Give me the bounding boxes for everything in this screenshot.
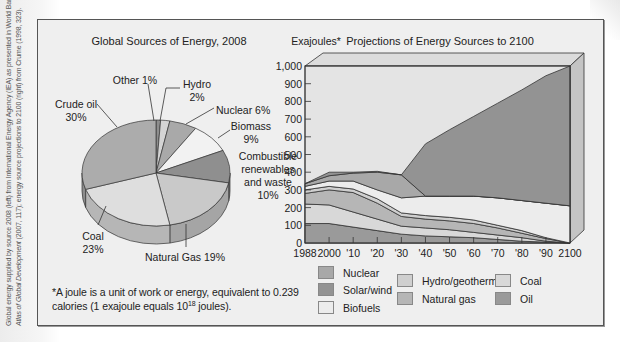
footnote-tail: joules). (196, 300, 232, 312)
pie-label: Other 1% (113, 74, 157, 86)
x-tick-label: '20 (370, 247, 384, 259)
joule-footnote: *A joule is a unit of work or energy, eq… (52, 285, 312, 313)
legend-item-hydro-geothermal: Hydro/geothermal (397, 274, 505, 287)
box-side-face (570, 53, 584, 243)
y-tick-label: 1,000 (276, 60, 302, 72)
x-tick-label: '80 (515, 247, 529, 259)
legend-swatch-solar-wind (318, 283, 334, 296)
x-tick-label: '60 (467, 247, 481, 259)
legend-swatch-biofuels (318, 301, 334, 314)
x-tick-label: 2000 (317, 247, 341, 259)
y-axis-label: Exajoules* (291, 35, 341, 47)
x-tick-label: '70 (491, 247, 505, 259)
pie-label: 9% (243, 133, 258, 145)
x-tick-label: '40 (419, 247, 433, 259)
legend-swatch-coal (495, 274, 511, 287)
pie-label: Hydro (183, 78, 211, 90)
y-tick-label: 200 (284, 202, 302, 214)
pie-label: Natural Gas 19% (145, 251, 225, 263)
pie-label: 10% (257, 189, 278, 201)
y-tick-label: 600 (284, 131, 302, 143)
y-tick-label: 300 (284, 184, 302, 196)
legend-item-coal: Coal (495, 274, 542, 287)
x-tick-label: '30 (395, 247, 409, 259)
x-tick-label: '10 (346, 247, 360, 259)
y-tick-label: 100 (284, 219, 302, 231)
area-chart-title: Projections of Energy Sources to 2100 (346, 35, 534, 47)
leader-line (148, 84, 154, 121)
area-chart: Exajoules*Projections of Energy Sources … (276, 35, 584, 259)
x-tick-label: 2100 (558, 247, 582, 259)
x-tick-label: '90 (539, 247, 553, 259)
legend-swatch-natural-gas (397, 292, 413, 305)
pie-label: Crude oil (55, 98, 97, 110)
legend-swatch-oil (495, 292, 511, 305)
legend-label: Hydro/geothermal (422, 275, 505, 287)
pie-label: 23% (82, 243, 103, 255)
y-tick-label: 900 (284, 78, 302, 90)
x-tick-label: 1988 (293, 247, 317, 259)
legend-label: Nuclear (343, 267, 379, 279)
leader-line (160, 88, 180, 121)
legend-item-natural-gas: Natural gas (397, 292, 476, 305)
pie-label: Biomass (231, 120, 271, 132)
x-tick-label: '50 (443, 247, 457, 259)
legend-swatch-nuclear (318, 266, 334, 279)
y-tick-label: 700 (284, 113, 302, 125)
pie-label: 30% (65, 111, 86, 123)
area-chart-legend: Nuclear Solar/wind Biofuels Hydro/geothe… (318, 266, 608, 322)
leader-line (97, 104, 117, 127)
box-top-face (305, 53, 584, 66)
y-tick-label: 400 (284, 166, 302, 178)
y-tick-label: 500 (284, 149, 302, 161)
legend-label: Biofuels (343, 302, 380, 314)
legend-item-solar-wind: Solar/wind (318, 283, 392, 296)
pie-label: Nuclear 6% (216, 104, 270, 116)
footnote-text: *A joule is a unit of work or energy, eq… (52, 286, 299, 312)
legend-label: Solar/wind (343, 284, 392, 296)
footnote-exponent: 18 (188, 300, 196, 307)
legend-label: Coal (520, 275, 542, 287)
legend-label: Natural gas (422, 293, 476, 305)
legend-item-oil: Oil (495, 292, 533, 305)
leader-line (218, 130, 230, 138)
pie-label: Coal (82, 230, 104, 242)
legend-swatch-hydro (397, 274, 413, 287)
y-tick-label: 800 (284, 95, 302, 107)
pie-chart-title: Global Sources of Energy, 2008 (91, 35, 246, 47)
leader-line (186, 108, 214, 124)
legend-label: Oil (520, 293, 533, 305)
pie-label: 2% (189, 91, 204, 103)
legend-item-biofuels: Biofuels (318, 301, 380, 314)
legend-item-nuclear: Nuclear (318, 266, 379, 279)
pie-chart: Global Sources of Energy, 2008Other 1%Hy… (55, 35, 297, 263)
